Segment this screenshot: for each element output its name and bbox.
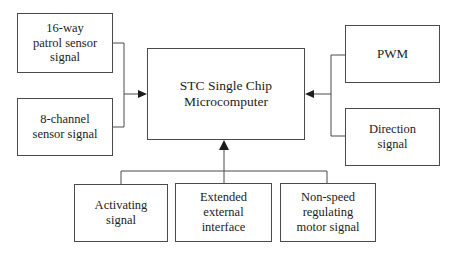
arrowhead-right-icon xyxy=(138,90,147,98)
block-activating-signal: Activating signal xyxy=(74,184,168,242)
block-pwm: PWM xyxy=(345,25,440,83)
block-label: Non-speed regulating motor signal xyxy=(294,190,363,234)
connector-bottom-bus xyxy=(121,140,327,184)
block-stc-single-chip-microcomputer: STC Single Chip Microcomputer xyxy=(147,48,305,140)
block-label: Direction signal xyxy=(366,122,419,152)
arrowhead-left-icon xyxy=(305,90,314,98)
block-label: PWM xyxy=(374,46,411,61)
block-direction-signal: Direction signal xyxy=(345,108,440,166)
connector-left-bus xyxy=(113,43,147,127)
arrowhead-up-icon xyxy=(219,140,229,150)
block-non-speed-regulating-motor-signal: Non-speed regulating motor signal xyxy=(280,183,376,242)
block-label: 16-way patrol sensor signal xyxy=(30,21,100,65)
block-label: Extended external interface xyxy=(197,190,250,234)
block-16-way-patrol-sensor-signal: 16-way patrol sensor signal xyxy=(17,13,113,73)
block-label: 8-channel sensor signal xyxy=(30,112,101,142)
connector-right-bus xyxy=(305,55,345,136)
block-diagram-canvas: 16-way patrol sensor signal 8-channel se… xyxy=(0,0,457,256)
block-extended-external-interface: Extended external interface xyxy=(175,183,272,242)
block-label: Activating signal xyxy=(92,198,151,228)
block-8-channel-sensor-signal: 8-channel sensor signal xyxy=(17,98,113,156)
block-label: STC Single Chip Microcomputer xyxy=(177,78,275,110)
